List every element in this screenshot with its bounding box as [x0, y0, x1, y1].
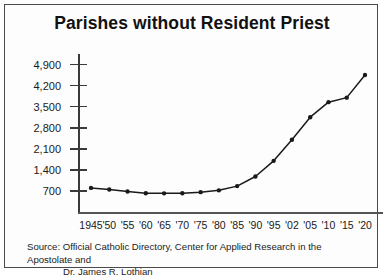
data-point [290, 138, 294, 142]
x-tick-label: '15 [340, 219, 354, 231]
x-axis-ticks: 1945'50'55'60'65'70'75'80'85'90'95'02'05… [65, 219, 383, 237]
x-tick-label: '55 [121, 219, 135, 231]
data-point [271, 159, 275, 163]
x-tick-label: '02 [285, 219, 299, 231]
x-tick-label: '95 [267, 219, 281, 231]
source-line-2: Dr. James R. Lothian [63, 266, 367, 279]
data-series [65, 45, 383, 220]
y-tick-label: 2,800 [9, 122, 61, 134]
data-point [363, 73, 367, 77]
y-tick-label: 2,100 [9, 143, 61, 155]
data-point [326, 100, 330, 104]
data-point [345, 95, 349, 99]
plot-area: 7001,4002,1002,8003,5004,2004,900 [65, 45, 383, 220]
x-tick-label: '80 [212, 219, 226, 231]
data-point [144, 191, 148, 195]
x-tick-label: '60 [139, 219, 153, 231]
x-tick-label: '05 [303, 219, 317, 231]
source-note: Source: Official Catholic Directory, Cen… [27, 241, 367, 279]
data-point [198, 190, 202, 194]
source-line-1: Source: Official Catholic Directory, Cen… [27, 241, 322, 265]
x-tick-label: '50 [102, 219, 116, 231]
x-tick-label: '20 [358, 219, 372, 231]
data-point [253, 174, 257, 178]
x-tick-label: '85 [230, 219, 244, 231]
data-point [107, 187, 111, 191]
x-tick-label: '90 [249, 219, 263, 231]
y-tick-label: 1,400 [9, 164, 61, 176]
series-line [91, 75, 365, 193]
data-point [235, 184, 239, 188]
x-tick-label: '70 [175, 219, 189, 231]
x-tick-label: '65 [157, 219, 171, 231]
data-point [125, 189, 129, 193]
y-tick-label: 3,500 [9, 101, 61, 113]
data-point [308, 115, 312, 119]
y-tick-label: 4,900 [9, 59, 61, 71]
x-tick-label: '75 [194, 219, 208, 231]
x-tick-label: 1945 [79, 219, 102, 231]
data-point [162, 191, 166, 195]
data-point [180, 191, 184, 195]
chart-card: Parishes without Resident Priest 7001,40… [4, 4, 378, 268]
y-tick-label: 4,200 [9, 80, 61, 92]
x-tick-label: '10 [322, 219, 336, 231]
data-point [217, 188, 221, 192]
chart-title: Parishes without Resident Priest [5, 13, 379, 34]
y-tick-label: 700 [9, 185, 61, 197]
data-point [89, 186, 93, 190]
